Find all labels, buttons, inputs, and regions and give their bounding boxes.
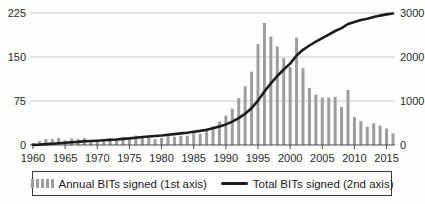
bar-2003 — [308, 88, 311, 145]
bar-1995 — [257, 44, 260, 145]
x-tick-label-2015: 2015 — [374, 152, 398, 164]
bar-1982 — [173, 137, 176, 145]
line-series-swatch-icon — [221, 182, 248, 185]
bar-1985 — [192, 132, 195, 145]
x-tick-label-1970: 1970 — [85, 152, 109, 164]
bar-1980 — [160, 138, 163, 145]
x-tick-label-1975: 1975 — [117, 152, 141, 164]
bar-2014 — [379, 126, 382, 145]
right-axis-label-2000: 2000 — [400, 51, 424, 63]
bar-series-swatch-icon — [31, 179, 54, 188]
x-tick-label-1990: 1990 — [214, 152, 238, 164]
bar-2004 — [314, 95, 317, 145]
total-bits-line — [33, 14, 393, 145]
bar-1984 — [186, 136, 189, 145]
x-tick-label-1960: 1960 — [21, 152, 45, 164]
bits-chart: 1960196519701975198019851990199520002005… — [0, 0, 425, 170]
bar-2013 — [372, 123, 375, 145]
left-axis-label-150: 150 — [8, 51, 26, 63]
x-tick-label-2010: 2010 — [342, 152, 366, 164]
x-tick-label-1980: 1980 — [149, 152, 173, 164]
bar-2016 — [392, 133, 395, 145]
chart-legend: Annual BITs signed (1st axis) Total BITs… — [32, 171, 392, 196]
x-tick-label-1985: 1985 — [181, 152, 205, 164]
bar-2005 — [321, 97, 324, 145]
bar-1997 — [269, 36, 272, 145]
bar-2012 — [366, 127, 369, 145]
bar-2015 — [385, 129, 388, 145]
bar-1978 — [147, 137, 150, 145]
bar-2011 — [359, 121, 362, 145]
right-axis-label-0: 0 — [400, 139, 406, 151]
bar-2002 — [302, 68, 305, 145]
bar-1992 — [237, 98, 240, 145]
right-axis-label-1000: 1000 — [400, 95, 424, 107]
bar-1987 — [205, 130, 208, 145]
legend-label-total-bits: Total BITs signed (2nd axis) — [253, 178, 394, 190]
bar-1996 — [263, 23, 266, 145]
bar-2007 — [334, 97, 337, 145]
bar-2009 — [347, 90, 350, 145]
bar-2008 — [340, 107, 343, 145]
bar-1973 — [115, 140, 118, 145]
bar-1986 — [199, 134, 202, 145]
bar-1979 — [154, 139, 157, 145]
bar-2000 — [289, 67, 292, 145]
x-tick-label-2000: 2000 — [278, 152, 302, 164]
left-axis-label-0: 0 — [20, 139, 26, 151]
legend-item-annual-bits: Annual BITs signed (1st axis) — [31, 178, 207, 190]
bar-2010 — [353, 117, 356, 145]
left-axis-label-225: 225 — [8, 7, 26, 19]
x-tick-label-1995: 1995 — [246, 152, 270, 164]
legend-label-annual-bits: Annual BITs signed (1st axis) — [59, 178, 207, 190]
bar-2006 — [327, 97, 330, 145]
left-axis-label-75: 75 — [14, 95, 26, 107]
legend-item-total-bits: Total BITs signed (2nd axis) — [221, 178, 394, 190]
bar-1983 — [179, 136, 182, 145]
x-tick-label-1965: 1965 — [53, 152, 77, 164]
chart-figure: 1960196519701975198019851990199520002005… — [0, 0, 425, 204]
bar-1991 — [231, 109, 234, 145]
x-tick-label-2005: 2005 — [310, 152, 334, 164]
right-axis-label-3000: 3000 — [400, 7, 424, 19]
bar-1990 — [224, 116, 227, 145]
bar-1998 — [276, 46, 279, 145]
